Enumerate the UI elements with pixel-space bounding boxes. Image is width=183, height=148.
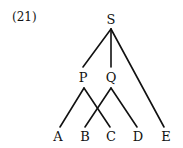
node-s: S <box>107 13 116 26</box>
edge-p-a <box>60 88 84 127</box>
node-p: P <box>79 71 88 84</box>
node-e: E <box>161 130 171 143</box>
edge-p-c <box>84 88 110 127</box>
node-b: B <box>80 130 90 143</box>
edge-s-p <box>83 29 111 67</box>
edge-s-e <box>111 29 164 127</box>
tree-edges <box>0 0 183 148</box>
edge-q-d <box>111 88 137 127</box>
node-a: A <box>53 130 62 143</box>
node-d: D <box>133 130 143 143</box>
edge-q-b <box>85 88 111 127</box>
node-q: Q <box>106 71 117 84</box>
node-c: C <box>106 130 116 143</box>
